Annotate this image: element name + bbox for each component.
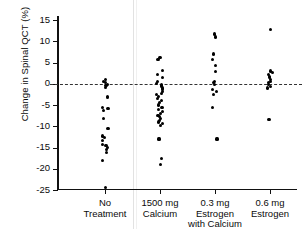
data-point xyxy=(159,124,162,127)
data-point xyxy=(212,52,215,55)
y-axis-tick-label: -25 xyxy=(36,184,50,195)
y-axis-tick-label: 5 xyxy=(45,56,50,67)
plot-area: 151050-5-10-15-20-25 NoTreatment1500 mgC… xyxy=(57,16,297,190)
data-point xyxy=(106,107,109,110)
y-axis-title: Change in Spinal QCT (%) xyxy=(19,0,35,164)
data-point xyxy=(104,86,107,89)
x-axis-tick-label-line: 0.6 mg xyxy=(227,198,308,209)
x-axis-tick-label-line: with Calcium xyxy=(172,219,258,229)
data-point xyxy=(161,76,164,79)
x-axis-tick xyxy=(215,189,216,194)
scatter-plot-figure: Change in Spinal QCT (%) 151050-5-10-15-… xyxy=(0,0,308,229)
data-point xyxy=(211,106,214,109)
y-axis-tick: 5 xyxy=(53,63,58,64)
y-axis-tick: -10 xyxy=(53,126,58,127)
y-axis-tick: 10 xyxy=(53,41,58,42)
data-point xyxy=(267,118,270,121)
data-point xyxy=(211,88,214,91)
data-point xyxy=(215,137,218,140)
data-point xyxy=(157,137,160,140)
data-point xyxy=(102,117,105,120)
x-axis-tick xyxy=(160,189,161,194)
data-point xyxy=(266,86,269,89)
y-axis-tick-label: -10 xyxy=(36,120,50,131)
y-axis-tick: -5 xyxy=(53,105,58,106)
data-point xyxy=(160,106,163,109)
x-axis-line xyxy=(57,189,297,191)
data-point xyxy=(212,93,215,96)
data-point xyxy=(156,73,159,76)
y-axis-tick: -15 xyxy=(53,148,58,149)
data-point xyxy=(105,151,108,154)
y-axis-tick-label: -5 xyxy=(42,99,50,110)
data-point xyxy=(106,96,109,99)
data-point xyxy=(159,163,162,166)
data-point xyxy=(211,58,214,61)
data-point xyxy=(102,109,105,112)
x-axis-tick-label-line: Estrogen xyxy=(227,209,308,220)
data-point xyxy=(101,139,104,142)
data-point xyxy=(269,28,272,31)
data-point xyxy=(214,35,217,38)
y-axis-tick: -20 xyxy=(53,169,58,170)
data-point xyxy=(156,58,159,61)
data-point xyxy=(106,127,109,130)
y-axis-tick: 15 xyxy=(53,20,58,21)
y-axis-tick-label: -15 xyxy=(36,141,50,152)
x-axis-tick xyxy=(270,189,271,194)
y-axis-tick-label: -20 xyxy=(36,162,50,173)
data-point xyxy=(160,157,163,160)
data-point xyxy=(157,108,160,111)
data-point xyxy=(214,70,217,73)
zero-reference-line xyxy=(50,84,302,85)
y-axis-tick-label: 10 xyxy=(39,35,50,46)
y-axis-tick: -25 xyxy=(53,190,58,191)
x-axis-tick-label: 0.6 mgEstrogen xyxy=(227,198,308,219)
data-point xyxy=(161,69,164,72)
data-point xyxy=(160,92,163,95)
data-point xyxy=(214,64,217,67)
data-point xyxy=(269,85,272,88)
data-point xyxy=(156,97,159,100)
data-point xyxy=(213,83,216,86)
data-point xyxy=(101,159,104,162)
data-point xyxy=(215,90,218,93)
x-axis-tick xyxy=(105,189,106,194)
y-axis-tick-label: 0 xyxy=(45,77,50,88)
y-axis-tick-label: 15 xyxy=(39,14,50,25)
data-point xyxy=(271,71,274,74)
